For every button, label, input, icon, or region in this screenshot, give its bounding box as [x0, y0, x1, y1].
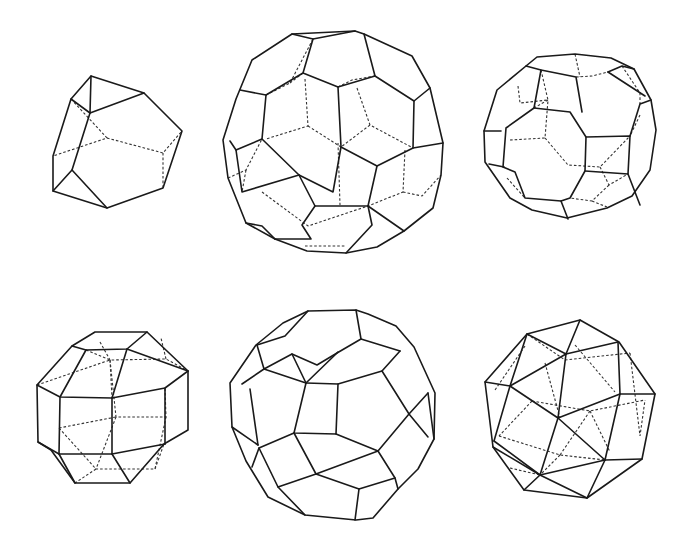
- hidden-edge: [600, 167, 628, 185]
- visible-edge: [278, 487, 305, 515]
- visible-edge: [630, 100, 651, 136]
- visible-edge: [346, 206, 372, 253]
- visible-edge: [409, 414, 428, 437]
- truncated-tetrahedron: [53, 76, 182, 208]
- visible-edge: [608, 72, 645, 96]
- visible-edge: [259, 433, 316, 487]
- visible-edge: [53, 76, 182, 208]
- hidden-edge: [592, 201, 607, 207]
- hidden-edge: [576, 72, 608, 77]
- hidden-edge: [590, 411, 610, 452]
- visible-edge: [341, 76, 414, 166]
- visible-edge: [524, 475, 540, 490]
- hidden-edge: [527, 334, 630, 360]
- hidden-edge: [308, 126, 341, 147]
- visible-edge: [618, 342, 620, 394]
- visible-edge: [382, 371, 428, 414]
- visible-edge: [250, 389, 258, 445]
- rhombicuboctahedron: [37, 332, 188, 483]
- visible-edge: [485, 320, 655, 498]
- visible-edge: [356, 310, 361, 339]
- hidden-edge: [622, 66, 640, 104]
- visible-edge: [355, 489, 359, 520]
- hidden-edge: [545, 363, 560, 418]
- visible-edge: [230, 310, 435, 520]
- visible-edge: [53, 113, 90, 191]
- visible-edge: [264, 352, 338, 383]
- visible-edge: [38, 442, 59, 454]
- snub-cube: [485, 320, 655, 498]
- visible-edge: [485, 354, 566, 386]
- hidden-edge: [242, 170, 246, 192]
- hidden-edge: [266, 39, 313, 95]
- visible-edge: [336, 414, 409, 451]
- visible-edge: [540, 460, 605, 475]
- hidden-edge: [507, 178, 525, 198]
- visible-edge: [257, 339, 400, 369]
- visible-edge: [395, 478, 398, 489]
- hidden-edge: [155, 444, 164, 469]
- hidden-edge: [100, 342, 110, 360]
- visible-edge: [240, 90, 266, 95]
- visible-edge: [252, 433, 294, 467]
- visible-edge: [59, 454, 75, 483]
- hidden-edge: [262, 192, 368, 226]
- hidden-edge: [518, 70, 548, 103]
- visible-edge: [230, 139, 262, 150]
- visible-edge: [72, 332, 147, 350]
- hidden-edge: [110, 360, 166, 417]
- truncated-octahedron: [484, 54, 656, 219]
- hidden-edge: [266, 79, 308, 139]
- visible-edge: [275, 206, 315, 239]
- hidden-edge: [341, 125, 370, 147]
- visible-edge: [414, 88, 430, 101]
- visible-edge: [527, 320, 580, 354]
- hidden-edge: [96, 417, 166, 469]
- visible-edge: [534, 108, 586, 201]
- truncated-icosahedron: [223, 31, 443, 253]
- visible-edge: [413, 143, 443, 148]
- visible-edge: [566, 342, 618, 354]
- hidden-edge: [545, 136, 630, 167]
- hidden-edge: [53, 99, 107, 156]
- hidden-edge: [107, 131, 182, 153]
- hidden-edge: [575, 54, 580, 77]
- visible-edge: [605, 459, 642, 460]
- hidden-edge: [357, 88, 413, 148]
- visible-edge: [628, 174, 640, 205]
- hidden-edge: [575, 345, 615, 392]
- truncated-icosidodecahedron: [230, 310, 435, 520]
- visible-edge: [242, 369, 264, 384]
- visible-edge: [112, 349, 127, 398]
- visible-edge: [489, 164, 504, 167]
- visible-edge: [503, 70, 568, 219]
- hidden-edge: [75, 469, 96, 483]
- hidden-edge: [403, 175, 441, 196]
- visible-edge: [585, 136, 630, 174]
- visible-edge: [71, 99, 90, 113]
- visible-edge: [316, 451, 378, 474]
- visible-edge: [294, 383, 338, 434]
- polyhedra-figure: [0, 0, 690, 540]
- visible-edge: [306, 351, 400, 384]
- visible-edge: [368, 206, 404, 231]
- visible-edge: [558, 394, 655, 418]
- hidden-edge: [59, 417, 116, 428]
- visible-edge: [558, 394, 620, 460]
- hidden-edge: [510, 100, 548, 140]
- visible-edge: [257, 311, 308, 345]
- visible-edge: [428, 393, 434, 439]
- visible-edge: [299, 166, 377, 206]
- visible-edge: [90, 76, 144, 113]
